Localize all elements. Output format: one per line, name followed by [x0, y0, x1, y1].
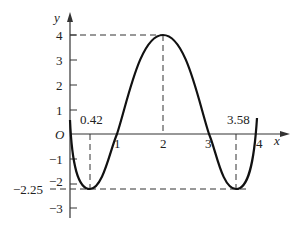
min2-x-label: 3.58 [227, 112, 250, 127]
origin-label: O [55, 127, 65, 142]
y-tick-4: 4 [56, 28, 63, 43]
x-axis-label: x [273, 133, 280, 148]
y-tick-m2: −2 [49, 174, 63, 189]
y-tick-1: 1 [56, 103, 63, 118]
x-axis-arrow [280, 131, 290, 137]
function-graph: y x O 4 3 2 1 −1 −2 −3 −2.25 1 2 3 4 0.4… [0, 0, 298, 225]
y-axis-arrow [67, 12, 73, 22]
y-tick-3: 3 [56, 53, 63, 68]
y-tick-2: 2 [56, 78, 63, 93]
x-tick-1: 1 [114, 136, 121, 151]
y-tick-m3: −3 [49, 201, 63, 216]
y-tick-m1: −1 [49, 152, 63, 167]
x-tick-3: 3 [205, 136, 212, 151]
y-axis-label: y [52, 10, 60, 25]
x-tick-4: 4 [256, 136, 263, 151]
y-value-min: −2.25 [13, 182, 43, 197]
min1-x-label: 0.42 [80, 112, 103, 127]
x-tick-2: 2 [160, 136, 167, 151]
